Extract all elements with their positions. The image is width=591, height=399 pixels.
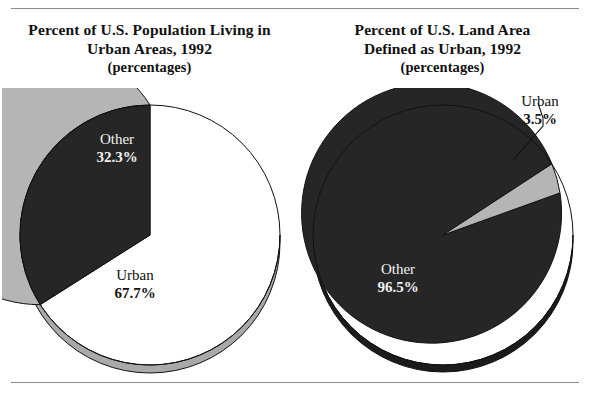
slice-label-other-value: 96.5% (343, 278, 453, 296)
chart-title-line2: Urban Areas, 1992 (87, 40, 212, 57)
slice-label-other-name: Other (343, 260, 453, 278)
slice-label-other: Other 32.3% (62, 130, 172, 166)
chart-subtitle: (percentages) (2, 58, 297, 77)
chart-title-line1: Percent of U.S. Population Living in (28, 21, 270, 38)
chart-title-land-area: Percent of U.S. Land Area Defined as Urb… (295, 20, 590, 77)
pie-chart-population: Other 32.3% Urban 67.7% (2, 88, 297, 383)
slice-label-urban-value: 3.5% (495, 110, 585, 128)
slice-label-urban-name: Urban (80, 266, 190, 284)
slice-label-urban-value: 67.7% (80, 284, 190, 302)
chart-subtitle: (percentages) (295, 58, 590, 77)
chart-title-line1: Percent of U.S. Land Area (355, 21, 531, 38)
slice-label-other-name: Other (62, 130, 172, 148)
chart-panel-land-area: Percent of U.S. Land Area Defined as Urb… (295, 0, 590, 399)
figure-container: Percent of U.S. Population Living in Urb… (0, 0, 591, 399)
chart-title-population: Percent of U.S. Population Living in Urb… (2, 20, 297, 77)
chart-title-line2: Defined as Urban, 1992 (364, 40, 521, 57)
pie-chart-land-area: Other 96.5% Urban 3.5% (295, 88, 590, 383)
pie-svg-land-area (295, 88, 590, 383)
chart-panel-population: Percent of U.S. Population Living in Urb… (2, 0, 297, 399)
slice-label-urban: Urban 3.5% (495, 92, 585, 128)
slice-label-urban-name: Urban (495, 92, 585, 110)
slice-label-other-value: 32.3% (62, 148, 172, 166)
slice-label-urban: Urban 67.7% (80, 266, 190, 302)
slice-label-other: Other 96.5% (343, 260, 453, 296)
